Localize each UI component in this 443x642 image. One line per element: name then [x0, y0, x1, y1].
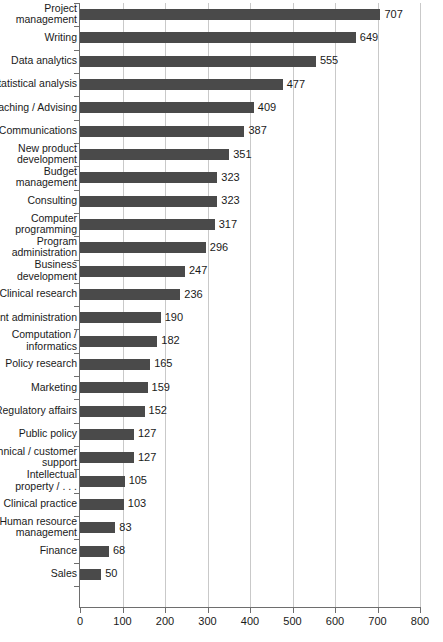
bar — [80, 32, 356, 43]
bar — [80, 242, 206, 253]
bar — [80, 382, 148, 393]
y-tick — [74, 26, 80, 27]
category-label: Finance — [0, 545, 77, 557]
bar-value-label: 351 — [233, 149, 251, 160]
category-label: Marketing — [0, 382, 77, 394]
y-tick — [74, 423, 80, 424]
bar — [80, 102, 254, 113]
y-tick — [74, 586, 80, 587]
bar-value-label: 165 — [154, 358, 172, 369]
y-tick — [74, 73, 80, 74]
bar-value-label: 317 — [219, 219, 237, 230]
bar — [80, 312, 161, 323]
bar — [80, 336, 157, 347]
category-label: New product development — [0, 143, 77, 166]
category-label: echnical / customer support — [0, 446, 77, 469]
x-tick-0 — [80, 608, 81, 613]
bar — [80, 196, 217, 207]
y-tick — [74, 96, 80, 97]
bar — [80, 9, 380, 20]
x-tick-label: 100 — [113, 615, 131, 627]
y-tick — [74, 306, 80, 307]
x-tick-600 — [335, 608, 336, 613]
bar-value-label: 296 — [210, 242, 228, 253]
bar — [80, 569, 101, 580]
x-tick-label: 400 — [241, 615, 259, 627]
bar-value-label: 152 — [149, 405, 167, 416]
x-tick-label: 500 — [283, 615, 301, 627]
bar-value-label: 50 — [105, 568, 117, 579]
y-tick — [74, 120, 80, 121]
bar-value-label: 68 — [113, 545, 125, 556]
bar-value-label: 477 — [287, 79, 305, 90]
gridline-100 — [123, 3, 124, 607]
category-label: Human resource management — [0, 516, 77, 539]
x-tick-label: 700 — [368, 615, 386, 627]
x-tick-100 — [123, 608, 124, 613]
x-tick-label: 0 — [77, 615, 83, 627]
bar — [80, 359, 150, 370]
bar-value-label: 159 — [152, 382, 170, 393]
y-tick — [74, 190, 80, 191]
bar-value-label: 127 — [138, 428, 156, 439]
bar — [80, 476, 125, 487]
category-label: Public policy — [0, 428, 77, 440]
x-tick-label: 600 — [326, 615, 344, 627]
bar — [80, 406, 145, 417]
plot-area — [80, 3, 420, 607]
category-label: Consulting — [0, 195, 77, 207]
bar-value-label: 247 — [189, 265, 207, 276]
gridline-400 — [250, 3, 251, 607]
y-tick — [74, 493, 80, 494]
category-label: Business development — [0, 259, 77, 282]
x-tick-700 — [378, 608, 379, 613]
category-label: rant administration — [0, 312, 77, 324]
bar — [80, 219, 215, 230]
bar-value-label: 190 — [165, 312, 183, 323]
y-tick — [74, 50, 80, 51]
gridline-500 — [293, 3, 294, 607]
category-label: Communications — [0, 125, 77, 137]
category-label: Clinical research — [0, 288, 77, 300]
bar — [80, 429, 134, 440]
bar — [80, 499, 124, 510]
category-label: Sales — [0, 568, 77, 580]
gridline-300 — [208, 3, 209, 607]
category-label: Program administration — [0, 236, 77, 259]
category-label: Budget management — [0, 166, 77, 189]
gridline-600 — [335, 3, 336, 607]
bar-value-label: 323 — [221, 195, 239, 206]
category-label: Project management — [0, 3, 77, 26]
x-tick-400 — [250, 608, 251, 613]
bar-value-label: 127 — [138, 452, 156, 463]
bar — [80, 79, 283, 90]
x-tick-label: 800 — [411, 615, 429, 627]
x-tick-label: 300 — [198, 615, 216, 627]
bar-value-label: 387 — [248, 125, 266, 136]
x-tick-300 — [208, 608, 209, 613]
category-label: Intellectual property / . . . — [0, 469, 77, 492]
bar — [80, 56, 316, 67]
y-tick — [74, 353, 80, 354]
bar — [80, 126, 244, 137]
y-tick — [74, 563, 80, 564]
y-tick — [74, 399, 80, 400]
y-tick — [74, 376, 80, 377]
x-tick-200 — [165, 608, 166, 613]
bar-value-label: 409 — [258, 102, 276, 113]
bar-value-label: 236 — [184, 289, 202, 300]
category-label: Clinical practice — [0, 498, 77, 510]
gridline-800 — [420, 3, 421, 607]
x-tick-label: 200 — [156, 615, 174, 627]
category-label: Statistical analysis — [0, 78, 77, 90]
gridline-200 — [165, 3, 166, 607]
horizontal-bar-chart: 0100200300400500600700800 70764955547740… — [0, 0, 443, 642]
category-label: Computer programming — [0, 213, 77, 236]
y-tick — [74, 539, 80, 540]
bar-value-label: 707 — [384, 9, 402, 20]
bar-value-label: 323 — [221, 172, 239, 183]
category-label: Writing — [0, 32, 77, 44]
bar-value-label: 555 — [320, 55, 338, 66]
bar-value-label: 182 — [161, 335, 179, 346]
y-tick — [74, 283, 80, 284]
